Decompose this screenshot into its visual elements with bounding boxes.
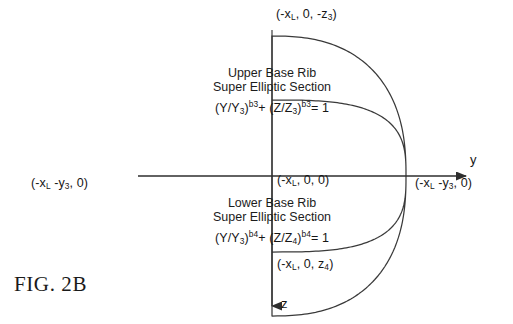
upper-equation: (Y/Y3)b3+ (Z/Z3)b3= 1: [152, 100, 392, 116]
upper-title-line-1: Upper Base Rib: [152, 66, 392, 80]
figure-2b-diagram: (-xL, 0, -z3) (-xL -y3, 0) (-xL -y3, 0) …: [0, 0, 513, 324]
z-axis-label: z: [281, 296, 288, 311]
upper-title-line-2: Super Elliptic Section: [152, 80, 392, 94]
label-right-point: (-xL -y3, 0): [415, 175, 472, 191]
label-bottom-point: (-xL, 0, z4): [277, 256, 333, 272]
upper-base-rib-block: Upper Base Rib Super Elliptic Section (Y…: [152, 66, 392, 110]
label-left-point: (-xL -y3, 0): [31, 175, 88, 191]
label-origin-point: (-xL, 0, 0): [277, 172, 329, 188]
lower-title-line-1: Lower Base Rib: [152, 196, 392, 210]
figure-caption: FIG. 2B: [14, 272, 87, 297]
label-top-point: (-xL, 0, -z3): [276, 6, 337, 22]
lower-equation: (Y/Y3)b4+ (Z/Z4)b4= 1: [152, 230, 392, 246]
y-axis-label: y: [470, 152, 477, 167]
lower-base-rib-block: Lower Base Rib Super Elliptic Section (Y…: [152, 196, 392, 240]
lower-title-line-2: Super Elliptic Section: [152, 210, 392, 224]
